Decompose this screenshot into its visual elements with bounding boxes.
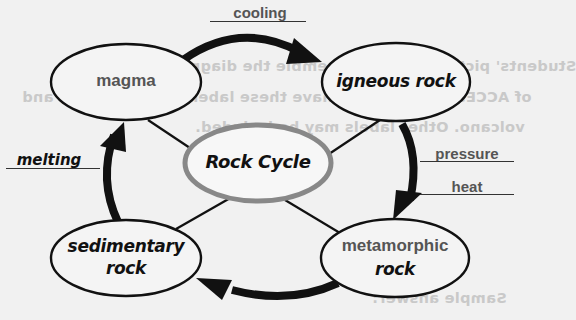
arrow-melting-head: [100, 122, 126, 152]
label-metamorphic-line1: metamorphic: [335, 236, 455, 256]
label-igneous-rock: igneous rock: [336, 71, 456, 91]
underline-cooling: [210, 21, 306, 22]
arrow-weathering: [232, 283, 338, 296]
label-magma: magma: [76, 71, 176, 91]
arrow-cooling-head: [286, 38, 322, 64]
label-sedimentary-line1: sedimentary: [66, 236, 186, 256]
underline-melting: [6, 168, 100, 169]
process-heat: heat: [420, 178, 514, 195]
spoke-metamorphic: [285, 200, 340, 233]
underline-heat: [420, 194, 514, 195]
node-metamorphic-rock: [321, 219, 469, 297]
process-pressure: pressure: [420, 145, 514, 162]
label-metamorphic-line2: rock: [335, 259, 455, 279]
process-cooling: cooling: [212, 4, 308, 21]
arrow-weathering-head: [196, 278, 232, 300]
process-melting: melting: [14, 151, 84, 169]
arrow-cooling: [183, 38, 300, 60]
label-sedimentary-line2: rock: [66, 258, 186, 278]
spoke-magma: [148, 120, 190, 148]
label-rock-cycle: Rock Cycle: [198, 151, 318, 172]
spoke-igneous: [326, 120, 380, 156]
arrow-pressure-heat: [402, 124, 414, 200]
underline-pressure: [420, 161, 514, 162]
spoke-sedimentary: [176, 197, 232, 229]
arrow-pressure-heat-head: [393, 190, 422, 220]
